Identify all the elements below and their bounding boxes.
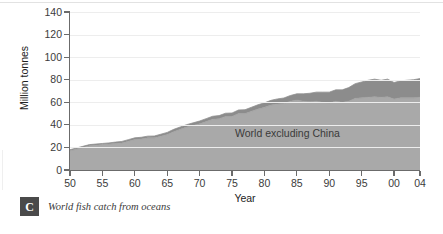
figure-page: 020406080100120140 505560657075808590950… xyxy=(0,0,443,234)
y-axis-title: Million tonnes xyxy=(18,46,30,110)
x-tick-label-70: 70 xyxy=(183,178,217,189)
y-tick-60 xyxy=(64,102,70,103)
x-tick-label-80: 80 xyxy=(247,178,281,189)
x-tick-label-85: 85 xyxy=(280,178,314,189)
y-tick-140 xyxy=(64,11,70,12)
caption-badge-letter: C xyxy=(25,201,34,213)
y-tick-40 xyxy=(64,124,70,125)
x-axis-title: Year xyxy=(234,192,255,204)
gridline-120 xyxy=(70,35,420,36)
x-tick-60 xyxy=(134,171,135,176)
plot-region xyxy=(70,12,420,170)
x-axis-line xyxy=(69,170,420,171)
y-tick-20 xyxy=(64,147,70,148)
gridline-100 xyxy=(70,57,420,58)
x-tick-95 xyxy=(361,171,362,176)
caption-text: World fish catch from oceans xyxy=(48,201,170,212)
x-tick-label-55: 55 xyxy=(85,178,119,189)
x-tick-04 xyxy=(419,171,420,176)
y-tick-label-140: 140 xyxy=(10,7,62,18)
y-tick-label-20: 20 xyxy=(10,142,62,153)
x-tick-label-95: 95 xyxy=(345,178,379,189)
figure-caption: C World fish catch from oceans xyxy=(20,197,170,216)
caption-badge-icon: C xyxy=(20,197,39,216)
gridline-20 xyxy=(70,147,420,148)
y-tick-label-0: 0 xyxy=(10,165,62,176)
gridline-140 xyxy=(70,12,420,13)
x-tick-55 xyxy=(102,171,103,176)
x-tick-label-60: 60 xyxy=(118,178,152,189)
x-tick-75 xyxy=(231,171,232,176)
gridline-40 xyxy=(70,125,420,126)
x-tick-label-50: 50 xyxy=(53,178,87,189)
x-tick-00 xyxy=(393,171,394,176)
y-tick-80 xyxy=(64,79,70,80)
y-tick-label-120: 120 xyxy=(10,29,62,40)
x-tick-label-90: 90 xyxy=(312,178,346,189)
x-tick-80 xyxy=(264,171,265,176)
y-tick-label-40: 40 xyxy=(10,119,62,130)
stacked-area-series xyxy=(70,12,420,170)
x-tick-65 xyxy=(167,171,168,176)
x-tick-85 xyxy=(296,171,297,176)
x-tick-50 xyxy=(69,171,70,176)
y-tick-120 xyxy=(64,34,70,35)
x-tick-70 xyxy=(199,171,200,176)
x-tick-label-04: 04 xyxy=(403,178,437,189)
series-annotation-world: World excluding China xyxy=(235,128,340,139)
x-tick-90 xyxy=(329,171,330,176)
gridline-60 xyxy=(70,102,420,103)
x-tick-label-75: 75 xyxy=(215,178,249,189)
x-tick-label-65: 65 xyxy=(150,178,184,189)
gridline-80 xyxy=(70,80,420,81)
y-tick-100 xyxy=(64,57,70,58)
series-annotation-china: China xyxy=(382,69,409,80)
